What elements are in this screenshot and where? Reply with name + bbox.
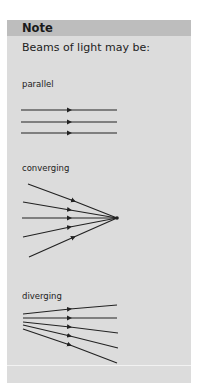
diverging-beam-diagram	[23, 305, 118, 363]
parallel-beam-diagram	[21, 110, 117, 133]
beam-diagrams	[0, 0, 206, 386]
converging-beam-diagram	[22, 184, 119, 257]
